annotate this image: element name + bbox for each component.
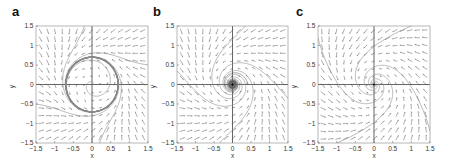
x-tick-label: 0.5 bbox=[246, 145, 255, 152]
y-tick-label: 0.5 bbox=[306, 61, 315, 68]
y-tick-label: 0 bbox=[312, 81, 316, 88]
x-tick-label: 0 bbox=[372, 145, 376, 152]
panel-letter: a bbox=[12, 4, 20, 19]
y-tick-label: 0 bbox=[171, 81, 175, 88]
y-axis-label: y bbox=[290, 84, 298, 88]
x-tick-label: 0 bbox=[231, 145, 235, 152]
x-tick-label: 1 bbox=[268, 145, 272, 152]
x-tick-label: 1.5 bbox=[283, 145, 292, 152]
y-tick-label: −0.5 bbox=[21, 100, 34, 107]
y-tick-label: −0.5 bbox=[162, 100, 175, 107]
y-tick-label: −1 bbox=[308, 120, 316, 127]
y-tick-label: −1 bbox=[26, 120, 34, 127]
y-axis-label: y bbox=[149, 84, 157, 88]
x-tick-label: 0.5 bbox=[388, 145, 397, 152]
y-tick-label: 1 bbox=[171, 42, 175, 49]
plot-area bbox=[318, 26, 430, 143]
panel-a: a−1.5−1−0.500.511.5−1.5−1−0.500.511.5xy bbox=[8, 4, 153, 159]
panel-c: c−1.5−1−0.500.511.5−1.5−1−0.500.511.5xy bbox=[290, 4, 435, 159]
y-tick-label: 1 bbox=[30, 42, 34, 49]
panel-letter: b bbox=[153, 4, 161, 19]
y-tick-label: 0.5 bbox=[24, 61, 33, 68]
y-tick-label: −1.5 bbox=[162, 139, 175, 146]
y-tick-label: 0 bbox=[30, 81, 34, 88]
plot-area bbox=[177, 26, 288, 143]
y-tick-label: −1.5 bbox=[21, 139, 34, 146]
y-tick-label: −1 bbox=[167, 120, 175, 127]
y-tick-label: 1 bbox=[312, 42, 316, 49]
y-tick-label: 0.5 bbox=[165, 61, 174, 68]
x-tick-label: −1 bbox=[333, 145, 341, 152]
x-tick-label: 0.5 bbox=[106, 145, 115, 152]
plot-area bbox=[36, 26, 148, 143]
x-tick-label: 1.5 bbox=[143, 145, 152, 152]
x-tick-label: −1 bbox=[51, 145, 59, 152]
x-tick-label: 1.5 bbox=[425, 145, 434, 152]
panel-letter: c bbox=[296, 4, 303, 19]
x-axis-label: x bbox=[372, 152, 376, 159]
x-tick-label: 1 bbox=[128, 145, 132, 152]
panel-b: b−1.5−1−0.500.511.5−1.5−1−0.500.511.5xy bbox=[149, 4, 293, 159]
y-tick-label: 1.5 bbox=[24, 22, 33, 29]
y-tick-label: −1.5 bbox=[303, 139, 316, 146]
x-tick-label: −0.5 bbox=[208, 145, 221, 152]
x-tick-label: −1 bbox=[192, 145, 200, 152]
y-tick-label: 1.5 bbox=[165, 22, 174, 29]
x-tick-label: −0.5 bbox=[67, 145, 80, 152]
x-axis-label: x bbox=[90, 152, 94, 159]
x-tick-label: 0 bbox=[90, 145, 94, 152]
y-tick-label: −0.5 bbox=[303, 100, 316, 107]
x-tick-label: 1 bbox=[410, 145, 414, 152]
x-tick-label: −0.5 bbox=[349, 145, 362, 152]
y-tick-label: 1.5 bbox=[306, 22, 315, 29]
x-axis-label: x bbox=[231, 152, 235, 159]
y-axis-label: y bbox=[8, 84, 16, 88]
figure: a−1.5−1−0.500.511.5−1.5−1−0.500.511.5xy … bbox=[0, 0, 450, 162]
